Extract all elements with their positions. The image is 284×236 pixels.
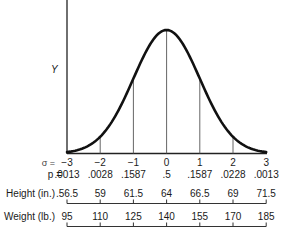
normal-distribution-chart: [0, 0, 284, 236]
height-value-label: 61.5: [124, 188, 143, 199]
p-value-label: .5: [162, 169, 170, 180]
weight-value-label: 95: [61, 211, 72, 222]
height-value-label: .56.5: [56, 188, 78, 199]
p-value-label: .1587: [121, 169, 146, 180]
p-value-label: .0028: [88, 169, 113, 180]
sigma-tick-label: 2: [230, 157, 236, 168]
sigma-tick-label: 3: [263, 157, 269, 168]
y-axis-label: Y: [51, 64, 58, 75]
height-row-label: Height (in.): [6, 188, 55, 199]
sigma-tick-label: −3: [61, 157, 72, 168]
sigma-tick-label: 0: [164, 157, 170, 168]
sigma-tick-label: −2: [94, 157, 105, 168]
sigma-row-label: σ =: [42, 158, 55, 169]
weight-value-label: 170: [225, 211, 242, 222]
height-value-label: 64: [161, 188, 172, 199]
height-value-label: 69: [227, 188, 238, 199]
height-ruler: [67, 200, 266, 204]
weight-value-label: 155: [191, 211, 208, 222]
p-value-label: .1587: [187, 169, 212, 180]
sigma-tick-label: −1: [128, 157, 139, 168]
height-value-label: 59: [95, 188, 106, 199]
weight-value-label: 110: [92, 211, 108, 222]
sigma-tick-label: 1: [197, 157, 203, 168]
p-value-label: .0228: [220, 169, 245, 180]
weight-ruler: [67, 223, 266, 227]
weight-row-label: Weight (lb.): [4, 211, 55, 222]
height-value-label: 66.5: [190, 188, 209, 199]
weight-value-label: 185: [258, 211, 275, 222]
sigma-lines: [100, 31, 233, 154]
p-value-label: .0013: [254, 169, 279, 180]
height-value-label: 71.5: [256, 188, 275, 199]
p-value-label: .0013: [54, 169, 79, 180]
weight-value-label: 125: [125, 211, 142, 222]
weight-value-label: 140: [158, 211, 175, 222]
